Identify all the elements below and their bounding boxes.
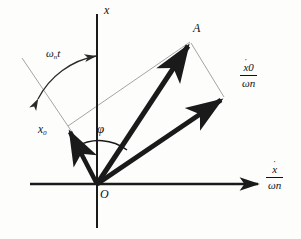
vector-x0-label: x0	[38, 124, 47, 137]
origin-label: O	[100, 188, 109, 200]
fraction-numerator: ˙x0	[240, 62, 257, 74]
angle-phi-label: φ	[97, 122, 104, 135]
angle-omega-n-t-label: ωnt	[46, 48, 60, 61]
vector-A-label: A	[193, 22, 200, 34]
fraction-bar	[240, 75, 257, 76]
fraction-denominator: ωn	[240, 77, 257, 89]
vector-group	[70, 46, 221, 184]
vector-x0dot-over-omegan-label: ˙x0 ωn	[240, 62, 257, 89]
phasor-diagram-canvas	[0, 0, 301, 239]
dot-accent-icon: ˙	[273, 161, 276, 170]
fraction-numerator: ˙x	[266, 164, 283, 176]
horizontal-axis-label: ˙x ωn	[266, 164, 283, 191]
phasor-diagram-figure: x O A x0 φ ωnt ˙x0 ωn ˙x	[0, 0, 301, 239]
fraction-denominator: ωn	[266, 179, 283, 191]
construction-line-x0-to-A	[68, 42, 190, 126]
construction-line-A-to-velocity	[191, 43, 224, 97]
vector-x0-shaft	[70, 132, 97, 184]
vector-x0dot-shaft	[97, 100, 221, 184]
vertical-axis-label: x	[104, 4, 109, 16]
angle-omega-n-t-arc	[38, 56, 96, 99]
dot-accent-icon: ˙	[244, 59, 247, 68]
fraction-bar	[266, 177, 283, 178]
angle-arcs	[38, 56, 127, 150]
vector-A-shaft	[97, 46, 188, 184]
